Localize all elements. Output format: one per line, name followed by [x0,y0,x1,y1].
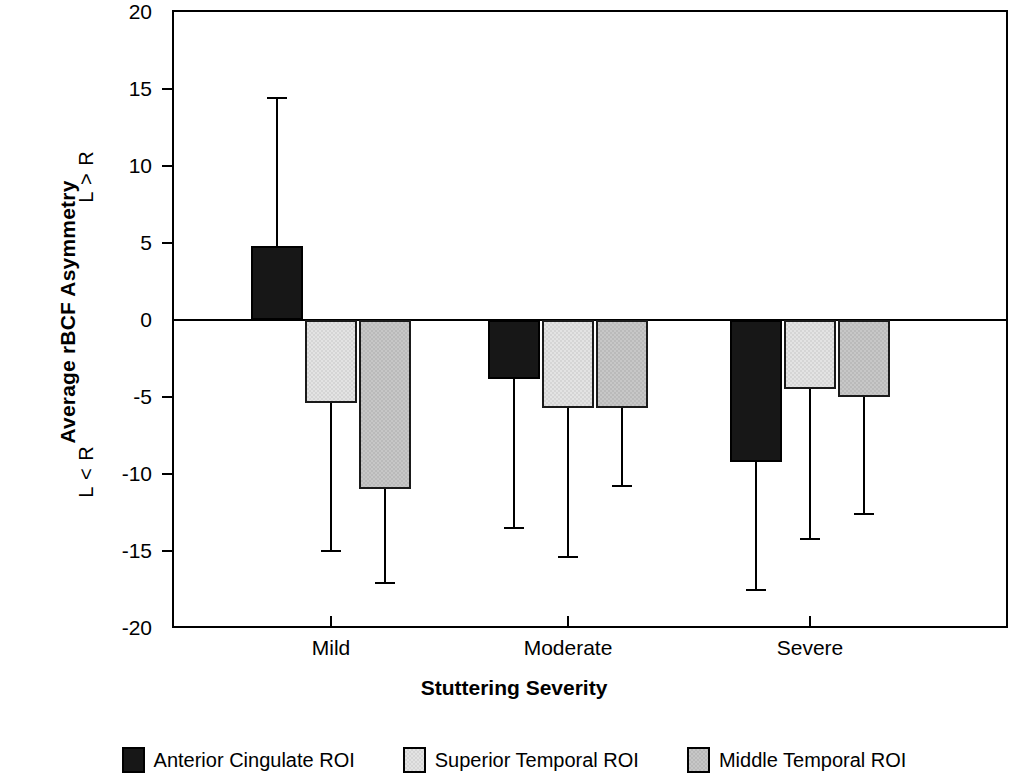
error-bar-stem [809,389,811,538]
bar-moderate-medium[interactable] [596,320,648,408]
error-bar-cap [612,485,632,487]
bar-mild-medium[interactable] [359,320,411,489]
bar-mild-light[interactable] [305,320,357,403]
x-axis-title: Stuttering Severity [0,676,1028,700]
error-bar-cap [800,538,820,540]
x-tick-label: Severe [710,636,910,660]
legend-item[interactable]: Middle Temporal ROI [687,747,906,773]
error-bar-stem [513,379,515,528]
error-bar-cap [267,97,287,99]
error-bar-stem [621,408,623,487]
bar-severe-medium[interactable] [838,320,890,397]
bar-mild-dark[interactable] [251,246,303,320]
chart-legend: Anterior Cingulate ROISuperior Temporal … [0,742,1028,778]
error-bar-stem [567,408,569,557]
x-tick-label: Mild [231,636,431,660]
error-bar-cap [746,589,766,591]
error-bar-stem [384,489,386,583]
legend-item[interactable]: Anterior Cingulate ROI [122,747,355,773]
bar-chart-figure: Average rBCF Asymmetry L > R L < R 20151… [0,0,1028,780]
x-tick-mark [809,616,811,628]
error-bar-stem [276,98,278,246]
x-tick-mark [567,616,569,628]
legend-swatch-icon [687,747,710,773]
legend-item[interactable]: Superior Temporal ROI [403,747,639,773]
legend-swatch-icon [122,747,145,773]
legend-swatch-icon [403,747,426,773]
legend-label: Anterior Cingulate ROI [154,749,355,772]
x-tick-label: Moderate [468,636,668,660]
bar-severe-light[interactable] [784,320,836,389]
error-bar-stem [863,397,865,514]
error-bar-cap [504,527,524,529]
error-bar-stem [755,462,757,590]
error-bar-stem [330,403,332,551]
bar-severe-dark[interactable] [730,320,782,462]
bars-layer [0,0,1028,780]
error-bar-cap [558,556,578,558]
x-tick-mark [330,616,332,628]
legend-label: Middle Temporal ROI [719,749,906,772]
error-bar-cap [854,513,874,515]
bar-moderate-dark[interactable] [488,320,540,379]
error-bar-cap [375,582,395,584]
bar-moderate-light[interactable] [542,320,594,408]
legend-label: Superior Temporal ROI [435,749,639,772]
error-bar-cap [321,550,341,552]
